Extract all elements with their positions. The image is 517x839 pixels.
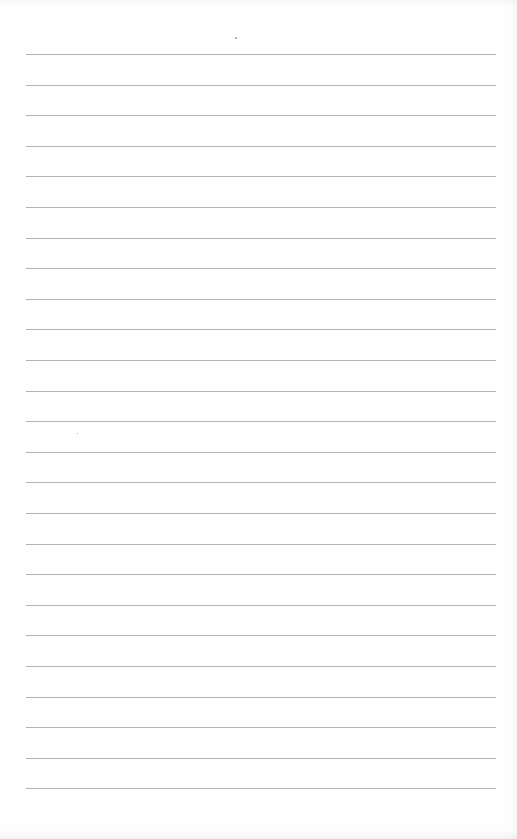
top-speck-mark xyxy=(235,37,237,39)
ruled-line xyxy=(26,513,496,514)
ruled-line xyxy=(26,391,496,392)
ruled-line xyxy=(26,207,496,208)
ruled-line xyxy=(26,452,496,453)
ruled-line xyxy=(26,421,496,422)
ruled-line xyxy=(26,268,496,269)
ruled-line xyxy=(26,482,496,483)
margin-speck-mark xyxy=(77,433,78,434)
ruled-line xyxy=(26,697,496,698)
ruled-line xyxy=(26,85,496,86)
ruled-line xyxy=(26,758,496,759)
ruled-line xyxy=(26,146,496,147)
ruled-line xyxy=(26,54,496,55)
ruled-line xyxy=(26,666,496,667)
ruled-line xyxy=(26,329,496,330)
ruled-line xyxy=(26,360,496,361)
ruled-line xyxy=(26,788,496,789)
ruled-line xyxy=(26,238,496,239)
ruled-line xyxy=(26,115,496,116)
ruled-line xyxy=(26,605,496,606)
page-edge-shadow xyxy=(509,0,517,839)
ruled-line xyxy=(26,727,496,728)
ruled-line xyxy=(26,635,496,636)
ruled-line xyxy=(26,544,496,545)
ruled-line xyxy=(26,574,496,575)
ruled-line xyxy=(26,299,496,300)
ruled-line xyxy=(26,176,496,177)
lined-paper-page xyxy=(0,0,517,839)
